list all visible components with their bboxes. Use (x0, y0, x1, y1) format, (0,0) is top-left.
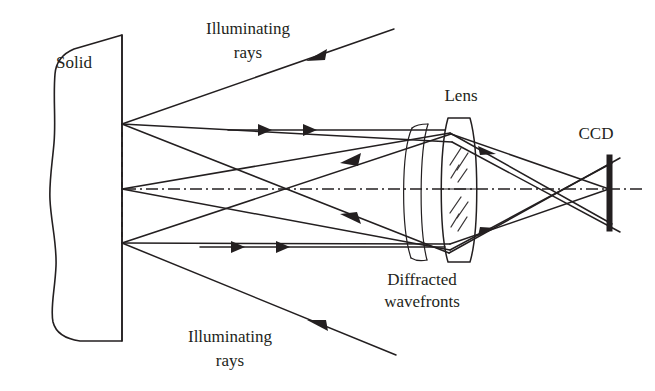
ray-bottom-to-lower-edge (122, 243, 450, 244)
wavefront-arc-1-bottom-cap (411, 258, 427, 261)
label-lens: Lens (444, 86, 477, 105)
lens-hatching-upper (450, 148, 468, 182)
horizontal-ray-top-group (228, 124, 445, 136)
post-lens-ray-d (450, 163, 612, 250)
illuminating-ray-bottom-arrowhead (307, 320, 328, 331)
label-illuminating-rays-top-line1: Illuminating (206, 19, 291, 38)
converging-ray-arrowhead-lower (340, 212, 361, 224)
optics-diagram: Solid Illuminating rays Illuminating ray… (0, 0, 655, 391)
post-lens-arrowhead-lower (478, 227, 496, 236)
label-solid: Solid (56, 53, 92, 72)
post-lens-arrowhead-upper (478, 146, 496, 155)
optics-svg-canvas: Solid Illuminating rays Illuminating ray… (0, 0, 655, 391)
solid-object-shape (50, 35, 122, 341)
label-diffracted-line2: wavefronts (384, 292, 460, 311)
ccd-detector-bar (607, 155, 612, 231)
converging-ray-arrowhead-upper (340, 153, 361, 166)
label-ccd: CCD (579, 124, 614, 143)
lens-hatching-lower (450, 197, 468, 231)
post-lens-ray-f (450, 189, 609, 244)
solid-object-group (50, 35, 122, 341)
label-illuminating-rays-top-line2: rays (234, 43, 262, 62)
label-illuminating-rays-bottom-line2: rays (216, 351, 244, 370)
wavefront-arc-2 (421, 124, 428, 260)
label-diffracted-line1: Diffracted (387, 270, 457, 289)
label-illuminating-rays-bottom-line1: Illuminating (188, 327, 273, 346)
horizontal-ray-top-arrowhead-1 (258, 124, 272, 136)
post-lens-ray-b (450, 133, 612, 224)
ray-middle-lower (122, 189, 450, 250)
ray-top-to-upper-edge (122, 124, 452, 142)
ray-middle-upper (122, 133, 450, 189)
wavefront-arc-1-top-cap (412, 124, 428, 128)
